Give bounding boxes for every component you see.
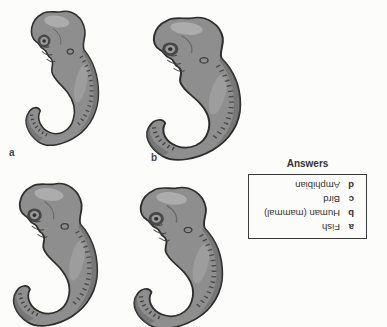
- answer-letter: c: [340, 193, 354, 206]
- answers-title: Answers: [248, 158, 367, 169]
- answer-item-b: b Human (mammal): [261, 207, 354, 220]
- embryo-label-a: a: [9, 148, 15, 158]
- answers-upside-down-content: a Fish b Human (mammal) c Bird d Amphibi…: [249, 175, 366, 238]
- answer-text: Human (mammal): [264, 207, 340, 220]
- embryo-b-illustration: [147, 18, 240, 160]
- answer-item-d: d Amphibian: [261, 179, 354, 192]
- answers-box: a Fish b Human (mammal) c Bird d Amphibi…: [248, 174, 367, 239]
- answer-letter: a: [340, 221, 354, 234]
- answer-text: Bird: [323, 193, 340, 206]
- answer-letter: d: [340, 179, 354, 192]
- answer-item-c: c Bird: [261, 193, 354, 206]
- answer-letter: b: [340, 207, 354, 220]
- answer-text: Amphibian: [295, 179, 340, 192]
- embryo-a-illustration: [26, 11, 98, 145]
- embryo-label-b: b: [151, 153, 157, 163]
- answer-item-a: a Fish: [261, 221, 354, 234]
- answer-text: Fish: [322, 221, 340, 234]
- embryo-c-illustration: [14, 184, 98, 326]
- embryo-d-illustration: [134, 188, 222, 327]
- figure-canvas: a b Answers a Fish b Human (mammal) c Bi…: [0, 0, 387, 327]
